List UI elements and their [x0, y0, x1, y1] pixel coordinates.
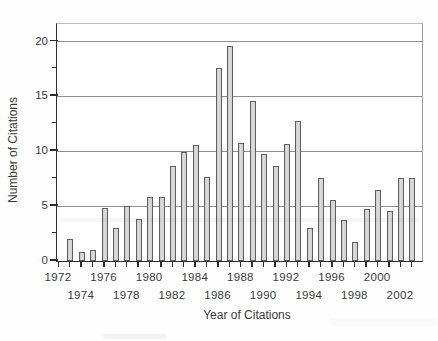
- x-tick-1987: [229, 262, 231, 267]
- bar-1993: [295, 121, 301, 261]
- citations-bar-chart: Number of Citations Year of Citations 05…: [0, 0, 438, 341]
- x-tick-1988: [240, 262, 242, 267]
- ytick-label-5: 5: [22, 199, 48, 211]
- bar-1987: [227, 46, 233, 261]
- scan-artifact-corner: [330, 318, 436, 326]
- bar-1978: [124, 206, 130, 261]
- bar-1989: [250, 101, 256, 261]
- bar-1995: [318, 178, 324, 261]
- x-axis-title: Year of Citations: [187, 308, 307, 322]
- y-minor-tick-12.5: [52, 122, 57, 123]
- bar-1976: [102, 208, 108, 261]
- bar-1998: [352, 242, 358, 261]
- bar-2003: [409, 178, 415, 261]
- xtick-label-1972-row1: 1972: [38, 271, 78, 283]
- plot-area: [56, 23, 423, 262]
- bar-1991: [273, 166, 279, 262]
- x-tick-1974: [80, 262, 82, 267]
- ytick-label-15: 15: [22, 89, 48, 101]
- x-tick-2000: [377, 262, 379, 267]
- bar-1994: [307, 228, 313, 261]
- x-tick-1976: [103, 262, 105, 267]
- x-tick-1995: [320, 262, 322, 267]
- bar-2002: [398, 178, 404, 261]
- x-tick-1979: [137, 262, 139, 267]
- y-major-tick-15: [50, 94, 58, 96]
- bar-2000: [375, 190, 381, 261]
- xtick-label-1988-row1: 1988: [220, 271, 260, 283]
- x-tick-1992: [286, 262, 288, 267]
- xtick-label-1986-row2: 1986: [198, 289, 238, 301]
- xtick-label-2000-row1: 2000: [357, 271, 397, 283]
- x-tick-1986: [217, 262, 219, 267]
- x-tick-1989: [251, 262, 253, 267]
- x-tick-1990: [263, 262, 265, 267]
- x-tick-1981: [160, 262, 162, 267]
- x-tick-1984: [194, 262, 196, 267]
- bar-1999: [364, 209, 370, 261]
- bar-1980: [147, 197, 153, 261]
- x-tick-1994: [308, 262, 310, 267]
- bar-1979: [136, 219, 142, 261]
- y-axis-title: Number of Citations: [6, 85, 20, 215]
- gridline-20: [57, 41, 422, 42]
- x-tick-1977: [115, 262, 117, 267]
- x-tick-1972: [58, 262, 60, 267]
- x-tick-2003: [411, 262, 413, 267]
- bar-1981: [159, 197, 165, 261]
- y-major-tick-5: [50, 204, 58, 206]
- bar-1982: [170, 166, 176, 262]
- bar-1986: [216, 68, 222, 261]
- bar-2001: [387, 211, 393, 262]
- x-tick-1997: [343, 262, 345, 267]
- xtick-label-1978-row2: 1978: [106, 289, 146, 301]
- xtick-label-2002-row2: 2002: [380, 289, 420, 301]
- bar-1983: [181, 152, 187, 261]
- y-minor-tick-7.5: [52, 177, 57, 178]
- scan-artifact-smudge: [103, 334, 167, 339]
- x-tick-1996: [331, 262, 333, 267]
- y-minor-tick-17.5: [52, 67, 57, 68]
- xtick-label-1994-row2: 1994: [289, 289, 329, 301]
- y-minor-tick-2.5: [52, 232, 57, 233]
- bar-1973: [67, 239, 73, 261]
- x-tick-1993: [297, 262, 299, 267]
- ytick-label-20: 20: [22, 35, 48, 47]
- x-tick-2002: [400, 262, 402, 267]
- bar-1977: [113, 228, 119, 261]
- bar-1992: [284, 144, 290, 261]
- bar-1985: [204, 177, 210, 262]
- bar-1990: [261, 154, 267, 262]
- x-tick-1983: [183, 262, 185, 267]
- y-major-tick-0: [50, 259, 58, 261]
- xtick-label-1992-row1: 1992: [266, 271, 306, 283]
- y-major-tick-10: [50, 149, 58, 151]
- x-tick-1973: [69, 262, 71, 267]
- bar-1996: [330, 200, 336, 261]
- xtick-label-1990-row2: 1990: [243, 289, 283, 301]
- x-tick-2001: [388, 262, 390, 267]
- gridline-15: [57, 96, 422, 97]
- x-tick-1980: [149, 262, 151, 267]
- xtick-label-1976-row1: 1976: [84, 271, 124, 283]
- ytick-label-0: 0: [22, 254, 48, 266]
- bar-1997: [341, 220, 347, 261]
- x-tick-1991: [274, 262, 276, 267]
- xtick-label-1980-row1: 1980: [129, 271, 169, 283]
- y-major-tick-20: [50, 40, 58, 42]
- x-tick-1975: [92, 262, 94, 267]
- x-tick-1978: [126, 262, 128, 267]
- ytick-label-10: 10: [22, 144, 48, 156]
- xtick-label-1996-row1: 1996: [312, 271, 352, 283]
- bar-1975: [90, 250, 96, 261]
- bar-1984: [193, 145, 199, 261]
- xtick-label-1984-row1: 1984: [175, 271, 215, 283]
- x-tick-1998: [354, 262, 356, 267]
- xtick-label-1998-row2: 1998: [334, 289, 374, 301]
- xtick-label-1974-row2: 1974: [61, 289, 101, 301]
- bar-1988: [238, 143, 244, 262]
- x-tick-1982: [172, 262, 174, 267]
- x-tick-1999: [365, 262, 367, 267]
- x-tick-1985: [206, 262, 208, 267]
- xtick-label-1982-row2: 1982: [152, 289, 192, 301]
